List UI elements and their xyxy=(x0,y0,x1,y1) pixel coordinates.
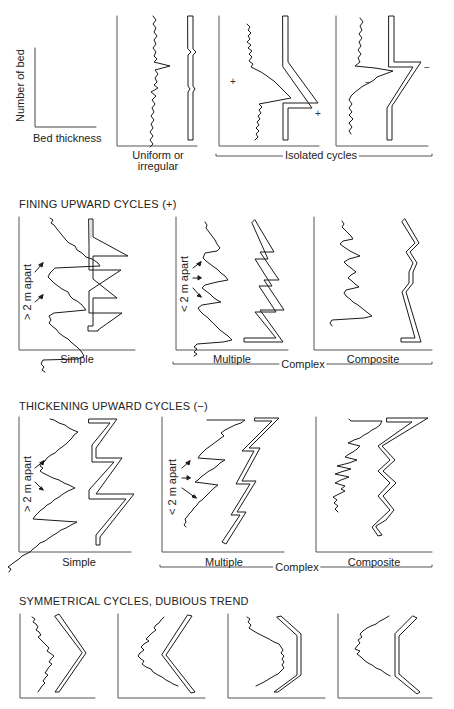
panel-symmetrical-1 xyxy=(20,614,95,698)
spacing-label-fining-simple: > 2 m apart xyxy=(21,264,33,320)
profile-column xyxy=(244,220,284,342)
panel-label-thickening-simple: Simple xyxy=(62,556,96,568)
panel-label-thickening-composite: Composite xyxy=(348,556,401,568)
plus-sign-profile: + xyxy=(315,108,321,119)
panel-label-fining-simple: Simple xyxy=(60,353,94,365)
profile-column xyxy=(188,16,196,140)
panel-fining-simple xyxy=(19,217,135,372)
profile-column xyxy=(222,418,279,544)
panel-thickening-multiple xyxy=(162,417,284,552)
x-axis-label: Bed thickness xyxy=(33,132,101,144)
bed-log-trace xyxy=(32,617,54,692)
spacing-label-thickening-simple: > 2 m apart xyxy=(21,456,33,512)
minus-sign-profile: − xyxy=(424,62,430,73)
panel-fining-multiple xyxy=(176,217,288,356)
panel-label-fining-composite: Composite xyxy=(347,353,400,365)
profile-column xyxy=(162,615,195,693)
bed-log-trace xyxy=(330,221,372,326)
panel-isolated-thickening xyxy=(336,16,428,146)
panel-label-irregular: irregular xyxy=(138,160,178,172)
bed-log-trace xyxy=(184,420,245,527)
panel-thickening-composite xyxy=(316,417,432,552)
section-title-symmetrical: SYMMETRICAL CYCLES, DUBIOUS TREND xyxy=(19,595,249,607)
panel-symmetrical-3 xyxy=(228,614,325,698)
panel-uniform-irregular xyxy=(117,16,197,147)
profile-column xyxy=(401,219,421,342)
y-axis-label: Number of bed xyxy=(14,49,26,122)
bed-log-trace xyxy=(41,218,100,372)
profile-column xyxy=(274,616,301,692)
profile-column xyxy=(89,419,134,545)
profile-column xyxy=(387,16,421,140)
bed-log-trace xyxy=(349,18,393,134)
bed-log-trace xyxy=(355,616,390,676)
plus-sign-log: + xyxy=(230,76,236,87)
section-title-thickening: THICKENING UPWARD CYCLES (−) xyxy=(19,400,208,412)
bed-log-trace xyxy=(150,16,170,147)
panel-symmetrical-4 xyxy=(338,614,432,698)
spacing-label-thickening-multiple: < 2 m apart xyxy=(166,459,178,515)
profile-column xyxy=(55,614,86,692)
profile-column xyxy=(88,219,128,331)
panel-label-thickening-multiple: Multiple xyxy=(205,556,243,568)
section-title-fining: FINING UPWARD CYCLES (+) xyxy=(19,198,177,210)
bed-log-trace xyxy=(333,419,382,512)
profile-column xyxy=(372,418,428,536)
panel-label-fining-multiple: Multiple xyxy=(213,353,251,365)
bed-log-trace xyxy=(247,617,284,686)
panel-symmetrical-2 xyxy=(118,614,205,698)
profile-column xyxy=(283,16,318,140)
group-label-isolated-cycles: Isolated cycles xyxy=(283,149,359,161)
group-label-complex-fining: Complex xyxy=(279,358,326,370)
panel-fining-composite xyxy=(314,217,432,350)
bed-log-trace xyxy=(194,222,232,356)
spacing-label-fining-multiple: < 2 m apart xyxy=(178,256,190,312)
group-label-complex-thickening: Complex xyxy=(273,561,320,573)
bed-log-trace xyxy=(247,24,291,140)
minus-sign-log: − xyxy=(365,77,371,88)
profile-column xyxy=(395,616,420,694)
bed-log-trace xyxy=(138,617,178,686)
legend-axes xyxy=(35,48,96,127)
